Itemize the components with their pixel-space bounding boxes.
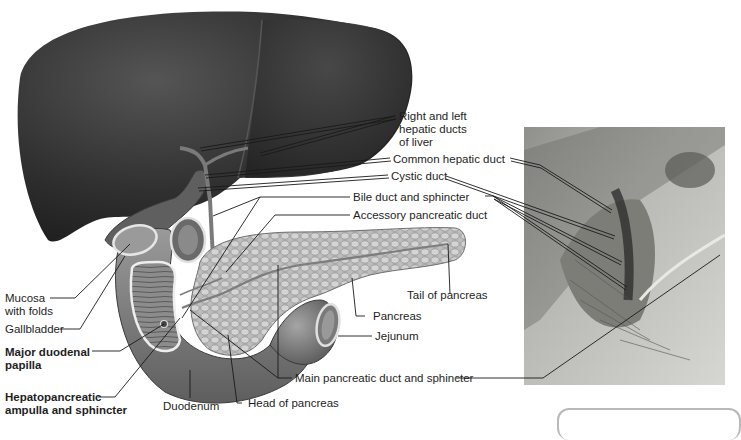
caption-box [557, 408, 741, 440]
label-head-of-pancreas: Head of pancreas [248, 397, 339, 410]
label-line: papilla [5, 359, 90, 372]
label-gallbladder: Gallbladder [5, 323, 64, 336]
label-line: Mucosa [5, 292, 53, 305]
label-line: hepatic ducts [399, 123, 467, 136]
label-cystic-duct: Cystic duct [391, 170, 447, 183]
label-hepatopancreatic-ampulla: Hepatopancreatic ampulla and sphincter [5, 391, 127, 417]
label-duodenum: Duodenum [163, 400, 219, 413]
liver [18, 12, 413, 242]
label-line: Hepatopancreatic [5, 391, 127, 404]
label-line: Right and left [399, 110, 467, 123]
label-line: Major duodenal [5, 346, 90, 359]
label-line: with folds [5, 305, 53, 318]
cadaver-photo [524, 127, 725, 385]
label-bile-duct-sphincter: Bile duct and sphincter [353, 191, 469, 204]
label-mucosa-with-folds: Mucosa with folds [5, 292, 53, 318]
label-jejunum: Jejunum [375, 330, 418, 343]
label-common-hepatic-duct: Common hepatic duct [393, 153, 505, 166]
label-accessory-pancreatic-duct: Accessory pancreatic duct [353, 209, 487, 222]
label-pancreas: Pancreas [373, 310, 422, 323]
label-right-left-hepatic-ducts: Right and left hepatic ducts of liver [399, 110, 467, 149]
label-line: ampulla and sphincter [5, 404, 127, 417]
label-line: of liver [399, 136, 467, 149]
label-tail-of-pancreas: Tail of pancreas [407, 289, 488, 302]
label-main-pancreatic-duct: Main pancreatic duct and sphincter [295, 372, 473, 385]
label-major-duodenal-papilla: Major duodenal papilla [5, 346, 90, 372]
